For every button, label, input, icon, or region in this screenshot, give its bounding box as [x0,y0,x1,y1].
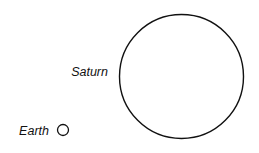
size-comparison-diagram: Saturn Earth [0,0,259,153]
earth-label: Earth [19,124,49,138]
saturn-circle [120,15,244,139]
earth-circle [58,125,69,136]
saturn-label: Saturn [71,65,108,79]
